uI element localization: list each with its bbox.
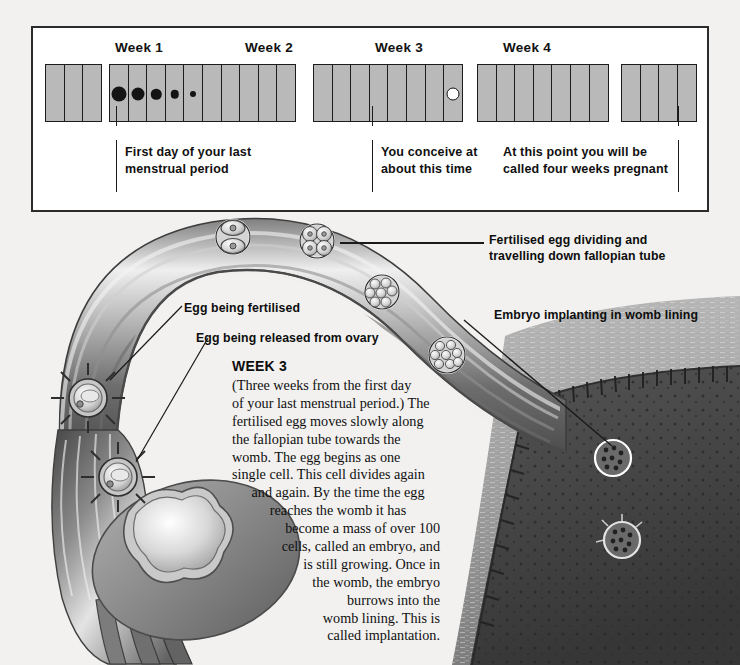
week3-line: is still growing. Once in	[232, 556, 444, 574]
day-cell[interactable]	[332, 64, 352, 122]
flow-dot	[171, 90, 180, 99]
week3-paragraph: (Three weeks from the first dayof your l…	[232, 377, 444, 645]
caption-first-day: First day of your last menstrual period	[125, 144, 345, 177]
week-label-1: Week 1	[115, 40, 163, 55]
week3-line: fertilised egg moves slowly along	[232, 413, 444, 431]
caption-four-weeks: At this point you will be called four we…	[503, 144, 673, 177]
morula-early-embryo	[365, 275, 399, 309]
day-cell[interactable]	[239, 64, 259, 122]
callout-egg-being-fertilised: Egg being fertilised	[184, 300, 300, 316]
day-cell[interactable]	[202, 64, 222, 122]
week3-line: become a mass of over 100	[232, 520, 444, 538]
caption-rule-3	[678, 140, 679, 192]
week3-line: the womb, the embryo	[232, 574, 444, 592]
week3-line: womb. The egg begins as one	[232, 449, 444, 467]
day-group-4	[477, 64, 617, 122]
day-cell[interactable]	[406, 64, 426, 122]
day-cell-menstrual-2[interactable]	[128, 64, 148, 122]
week3-line: of your last menstrual period.) The	[232, 395, 444, 413]
day-cell[interactable]	[677, 64, 697, 122]
day-cell[interactable]	[570, 64, 590, 122]
leader-line-conception	[372, 106, 373, 126]
day-cell[interactable]	[496, 64, 516, 122]
day-cell[interactable]	[533, 64, 553, 122]
callout-embryo-implanting: Embryo implanting in womb lining	[494, 307, 698, 323]
week3-line: cells, called an embryo, and	[232, 538, 444, 556]
week-headers: Week 1 Week 2 Week 3 Week 4	[33, 40, 707, 60]
day-cell[interactable]	[82, 64, 102, 122]
day-cell[interactable]	[350, 64, 370, 122]
week3-text-block: WEEK 3 (Three weeks from the first dayof…	[232, 358, 444, 645]
day-cell[interactable]	[45, 64, 65, 122]
week-label-3: Week 3	[375, 40, 423, 55]
week3-line: (Three weeks from the first day	[232, 377, 444, 395]
day-group-5	[621, 64, 699, 122]
pregnancy-calendar-panel: Week 1 Week 2 Week 3 Week 4	[31, 26, 709, 212]
week3-line: burrows into the	[232, 592, 444, 610]
day-cell[interactable]	[64, 64, 84, 122]
week3-line: womb lining. This is	[232, 610, 444, 628]
day-cell-ovulation[interactable]	[443, 64, 463, 122]
day-cell[interactable]	[387, 64, 407, 122]
day-group-1	[45, 64, 105, 122]
day-cell[interactable]	[477, 64, 497, 122]
ovulation-dot	[447, 88, 460, 101]
pregnancy-week3-diagram: Week 1 Week 2 Week 3 Week 4	[0, 0, 740, 665]
embryo-blastocyst-upper	[595, 440, 631, 476]
week3-line: called implantation.	[232, 627, 444, 645]
callout-egg-released-from-ovary: Egg being released from ovary	[196, 330, 379, 346]
caption-rule-2	[372, 140, 373, 192]
day-cell[interactable]	[221, 64, 241, 122]
day-cell-menstrual-4[interactable]	[165, 64, 185, 122]
day-cell[interactable]	[425, 64, 445, 122]
day-cell[interactable]	[258, 64, 278, 122]
flow-dot	[190, 91, 196, 97]
day-cell[interactable]	[589, 64, 609, 122]
flow-dot	[151, 89, 162, 100]
caption-rule-1	[116, 140, 117, 192]
day-cell[interactable]	[658, 64, 678, 122]
callout-fertilised-egg-dividing: Fertilised egg dividing and travelling d…	[489, 232, 666, 264]
week-label-4: Week 4	[503, 40, 551, 55]
egg-being-fertilised-cell	[51, 363, 125, 433]
egg-released-from-ovary-cell	[81, 442, 155, 512]
week3-line: and again. By the time the egg	[232, 484, 444, 502]
day-cell[interactable]	[551, 64, 571, 122]
week3-line: reaches the womb it has	[232, 502, 444, 520]
day-cell[interactable]	[276, 64, 296, 122]
leader-line-four-weeks	[678, 106, 679, 126]
leader-line-first-day	[116, 106, 117, 126]
day-cell-menstrual-1[interactable]	[109, 64, 129, 122]
day-group-3	[313, 64, 473, 122]
week-label-2: Week 2	[245, 40, 293, 55]
week3-line: the fallopian tube towards the	[232, 431, 444, 449]
day-cell[interactable]	[640, 64, 660, 122]
week3-line: single cell. This cell divides again	[232, 466, 444, 484]
two-cell-stage-embryo	[216, 220, 250, 254]
day-cell[interactable]	[621, 64, 641, 122]
four-cell-stage-embryo	[300, 224, 334, 258]
day-cell-menstrual-5[interactable]	[183, 64, 203, 122]
flow-dot	[112, 87, 127, 102]
flow-dot	[131, 88, 144, 101]
day-cell[interactable]	[514, 64, 534, 122]
day-cell[interactable]	[313, 64, 333, 122]
week3-heading: WEEK 3	[232, 358, 444, 374]
day-group-2	[109, 64, 309, 122]
day-cell-menstrual-3[interactable]	[146, 64, 166, 122]
